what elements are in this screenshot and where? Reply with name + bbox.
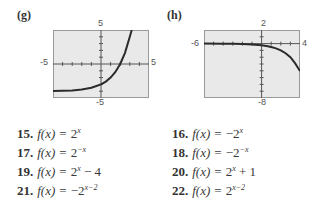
- h-xmin-label: -6: [191, 39, 199, 48]
- exercise-number: 21.: [17, 183, 33, 198]
- exponent: x: [239, 126, 243, 135]
- g-ymax-label: 5: [98, 19, 103, 28]
- base: −2: [71, 183, 85, 198]
- function-name: f(x): [37, 126, 55, 141]
- exercise-22: 22.f(x)=2x−2: [172, 183, 245, 199]
- panel-label-g: (g): [17, 8, 31, 23]
- exercise-17: 17.f(x)=2−x: [17, 145, 86, 161]
- g-xmin-label: -5: [40, 58, 48, 67]
- exercise-number: 19.: [17, 164, 33, 179]
- tail: − 4: [81, 164, 101, 179]
- exercise-row: 21.f(x)=−2x−2 22.f(x)=2x−2: [17, 183, 317, 202]
- exercise-21: 21.f(x)=−2x−2: [17, 183, 97, 199]
- equals-sign: =: [59, 164, 66, 179]
- exponent: −x: [239, 145, 248, 154]
- function-name: f(x): [192, 164, 210, 179]
- exercise-row: 17.f(x)=2−x 18.f(x)=−2−x: [17, 145, 317, 164]
- h-xmax-label: 4: [302, 39, 307, 48]
- exercise-row: 15.f(x)=2x 16.f(x)=−2x: [17, 126, 317, 145]
- function-name: f(x): [37, 183, 55, 198]
- exercise-number: 15.: [17, 126, 33, 141]
- exercise-number: 18.: [172, 145, 188, 160]
- graph-h: [204, 30, 300, 98]
- exercise-19: 19.f(x)=2x − 4: [17, 164, 101, 180]
- equals-sign: =: [214, 126, 221, 141]
- function-name: f(x): [192, 145, 210, 160]
- exercise-number: 17.: [17, 145, 33, 160]
- base: −2: [226, 126, 240, 141]
- exercise-18: 18.f(x)=−2−x: [172, 145, 248, 161]
- exponent: x−2: [84, 183, 97, 192]
- tail: + 1: [236, 164, 256, 179]
- graph-h-plot: [204, 30, 300, 98]
- panel-label-h: (h): [167, 8, 182, 23]
- exercise-number: 22.: [172, 183, 188, 198]
- exercise-number: 20.: [172, 164, 188, 179]
- exercise-row: 19.f(x)=2x − 4 20.f(x)=2x + 1: [17, 164, 317, 183]
- equals-sign: =: [59, 183, 66, 198]
- graph-g: [53, 30, 149, 98]
- g-xmax-label: 5: [151, 58, 156, 67]
- exponent: x: [77, 126, 81, 135]
- equals-sign: =: [59, 126, 66, 141]
- exercise-20: 20.f(x)=2x + 1: [172, 164, 256, 180]
- equals-sign: =: [214, 183, 221, 198]
- g-ymin-label: -5: [96, 98, 104, 107]
- equals-sign: =: [214, 145, 221, 160]
- function-name: f(x): [37, 145, 55, 160]
- function-name: f(x): [192, 183, 210, 198]
- function-name: f(x): [192, 126, 210, 141]
- base: −2: [226, 145, 240, 160]
- exercise-15: 15.f(x)=2x: [17, 126, 81, 142]
- equals-sign: =: [59, 145, 66, 160]
- h-ymin-label: -8: [258, 98, 266, 107]
- exponent: x−2: [232, 183, 245, 192]
- exercise-16: 16.f(x)=−2x: [172, 126, 243, 142]
- exercise-number: 16.: [172, 126, 188, 141]
- exponent: −x: [77, 145, 86, 154]
- h-ymax-label: 2: [261, 19, 266, 28]
- equals-sign: =: [214, 164, 221, 179]
- graph-g-plot: [53, 30, 149, 98]
- function-name: f(x): [37, 164, 55, 179]
